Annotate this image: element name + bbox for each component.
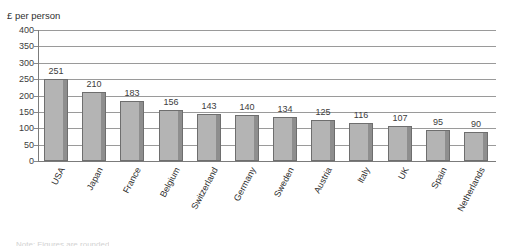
footnote-text: Note: Figures are rounded bbox=[16, 241, 109, 246]
y-axis-tick-label: 200 bbox=[4, 92, 34, 101]
bar-shadow-edge bbox=[139, 101, 144, 161]
x-axis-category-label: Netherlands bbox=[456, 166, 487, 213]
bar-group: 156 bbox=[159, 30, 183, 161]
bar-group: 140 bbox=[235, 30, 259, 161]
bar-shadow-edge bbox=[254, 115, 259, 161]
y-axis-tick-mark bbox=[34, 161, 38, 162]
bar-shadow-edge bbox=[445, 130, 450, 161]
bars-layer: 2512101831561431401341251161079590 bbox=[38, 30, 496, 161]
bar-group: 183 bbox=[120, 30, 144, 161]
x-axis-category-label: Italy bbox=[356, 166, 372, 185]
bar-shadow-edge bbox=[101, 92, 106, 161]
y-axis-tick-label: 300 bbox=[4, 59, 34, 68]
x-axis-category-label: France bbox=[122, 166, 143, 195]
x-axis-category-label: Germany bbox=[233, 166, 258, 203]
bar-group: 143 bbox=[197, 30, 221, 161]
y-axis-tick-label: 50 bbox=[4, 141, 34, 150]
x-axis-category-label: UK bbox=[397, 166, 411, 181]
y-axis-tick-label: 0 bbox=[4, 157, 34, 166]
x-axis-category-label: USA bbox=[50, 166, 67, 187]
bar-group: 116 bbox=[349, 30, 373, 161]
x-axis-category-labels: USAJapanFranceBelgiumSwitzerlandGermanyS… bbox=[38, 164, 496, 246]
y-axis-tick-label: 250 bbox=[4, 75, 34, 84]
bar-chart: £ per person 050100150200250300350400 25… bbox=[0, 0, 510, 246]
y-axis-tick-label: 400 bbox=[4, 26, 34, 35]
bar-group: 90 bbox=[464, 30, 488, 161]
y-axis-tick-label: 350 bbox=[4, 42, 34, 51]
bar-value-label: 116 bbox=[339, 111, 383, 120]
y-axis-unit-caption: £ per person bbox=[7, 10, 60, 22]
x-axis-category-label: Belgium bbox=[159, 166, 182, 199]
x-axis-category-label: Japan bbox=[85, 166, 104, 192]
bar-group: 210 bbox=[82, 30, 106, 161]
gridline bbox=[38, 161, 496, 162]
y-axis-tick-label: 100 bbox=[4, 124, 34, 133]
bar-value-label: 210 bbox=[72, 80, 116, 89]
bar-value-label: 183 bbox=[110, 89, 154, 98]
x-axis-category-label: Spain bbox=[430, 166, 449, 191]
bar-group: 107 bbox=[388, 30, 412, 161]
bar-group: 95 bbox=[426, 30, 450, 161]
bar-shadow-edge bbox=[178, 110, 183, 161]
bar-shadow-edge bbox=[407, 126, 412, 161]
bar-shadow-edge bbox=[368, 123, 373, 161]
bar-group: 125 bbox=[311, 30, 335, 161]
bar-shadow-edge bbox=[330, 120, 335, 161]
x-axis-category-label: Sweden bbox=[273, 166, 296, 199]
bar-value-label: 251 bbox=[34, 67, 78, 76]
x-axis-category-label: Austria bbox=[313, 166, 334, 195]
x-axis-category-label: Switzerland bbox=[190, 166, 220, 211]
bar-group: 251 bbox=[44, 30, 68, 161]
bar-group: 134 bbox=[273, 30, 297, 161]
y-axis-tick-label: 150 bbox=[4, 108, 34, 117]
bar-value-label: 90 bbox=[454, 120, 498, 129]
bar-shadow-edge bbox=[483, 132, 488, 161]
bar-shadow-edge bbox=[216, 114, 221, 161]
bar-shadow-edge bbox=[63, 79, 68, 161]
bar-shadow-edge bbox=[292, 117, 297, 161]
